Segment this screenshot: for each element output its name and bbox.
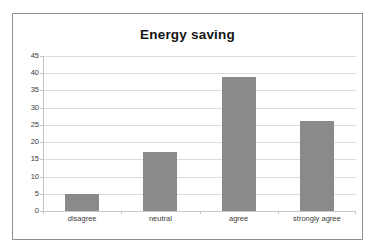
- chart-title: Energy saving: [13, 27, 362, 42]
- x-axis-tick-label: agree: [229, 214, 248, 223]
- y-axis-tick-labels: 051015202530354045: [13, 56, 39, 211]
- y-axis-tick-label: 5: [35, 190, 39, 198]
- y-axis-tick-label: 35: [31, 86, 39, 94]
- bar[interactable]: [143, 152, 177, 211]
- bar-slot: [121, 56, 199, 211]
- bar-slot: [43, 56, 121, 211]
- y-axis-tick-label: 30: [31, 104, 39, 112]
- x-axis-tick-label: strongly agree: [293, 214, 341, 223]
- bar-slot: [200, 56, 278, 211]
- y-axis-tick-label: 45: [31, 52, 39, 60]
- y-axis-tick-label: 25: [31, 121, 39, 129]
- y-axis-tick-label: 10: [31, 173, 39, 181]
- bar-slot: [278, 56, 356, 211]
- y-axis-tick-label: 0: [35, 207, 39, 215]
- y-axis-tick-label: 40: [31, 69, 39, 77]
- bar[interactable]: [300, 121, 334, 211]
- bar[interactable]: [65, 194, 99, 211]
- x-axis-tick-labels: disagreeneutralagreestrongly agree: [43, 214, 356, 230]
- x-axis-tick-label: neutral: [149, 214, 172, 223]
- bar-series: [43, 56, 356, 211]
- x-axis-tick-label: disagree: [68, 214, 97, 223]
- y-axis-tick-label: 20: [31, 138, 39, 146]
- chart-frame: Energy saving 051015202530354045 disagre…: [12, 13, 363, 240]
- bar[interactable]: [222, 77, 256, 211]
- y-axis-tick-label: 15: [31, 155, 39, 163]
